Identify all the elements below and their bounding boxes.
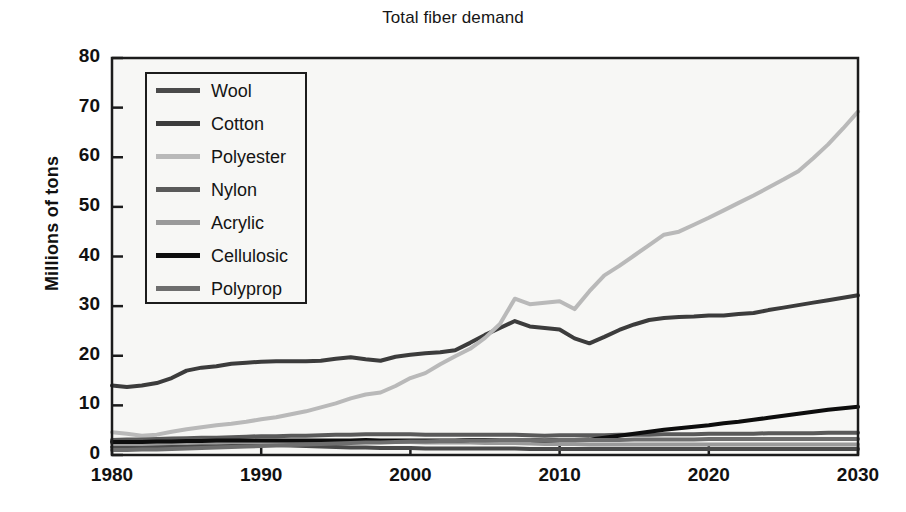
y-tick-label: 60 [54,144,100,166]
y-tick-label: 80 [54,45,100,67]
legend-item-acrylic[interactable]: Acrylic [147,206,305,239]
legend-item-cotton[interactable]: Cotton [147,107,305,140]
x-tick-label: 1980 [67,464,157,486]
legend-swatch-cellulosic [156,253,200,258]
legend-item-polyester[interactable]: Polyester [147,140,305,173]
x-tick-label: 2010 [515,464,605,486]
legend-label: Cotton [211,115,264,133]
legend-swatch-acrylic [156,220,200,225]
y-tick-label: 30 [54,293,100,315]
legend-label: Nylon [211,181,257,199]
legend-label: Wool [211,82,252,100]
y-tick-label: 20 [54,343,100,365]
x-tick-label: 2000 [365,464,455,486]
chart-legend[interactable]: WoolCottonPolyesterNylonAcrylicCellulosi… [145,72,307,304]
legend-item-nylon[interactable]: Nylon [147,173,305,206]
legend-swatch-polyprop [156,286,200,291]
legend-swatch-nylon [156,187,200,192]
legend-label: Polyprop [211,280,282,298]
y-tick-label: 0 [54,442,100,464]
legend-item-wool[interactable]: Wool [147,74,305,107]
legend-swatch-wool [156,88,200,93]
y-tick-label: 40 [54,244,100,266]
x-tick-label: 2030 [813,464,903,486]
y-tick-label: 10 [54,392,100,414]
plot-area [0,0,906,512]
legend-label: Polyester [211,148,286,166]
legend-item-polyprop[interactable]: Polyprop [147,272,305,305]
legend-item-cellulosic[interactable]: Cellulosic [147,239,305,272]
x-tick-label: 1990 [216,464,306,486]
legend-label: Cellulosic [211,247,288,265]
legend-label: Acrylic [211,214,264,232]
chart-figure: Total fiber demand Millions of tons 0102… [0,0,906,512]
x-tick-label: 2020 [664,464,754,486]
legend-swatch-polyester [156,154,200,159]
y-tick-label: 50 [54,194,100,216]
legend-swatch-cotton [156,121,200,126]
y-tick-label: 70 [54,95,100,117]
